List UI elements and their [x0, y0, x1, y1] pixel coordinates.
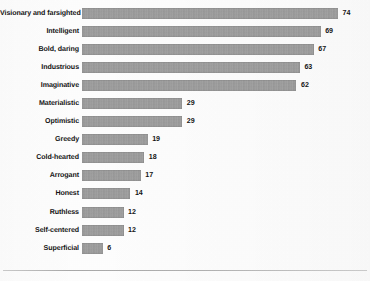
bar-value-label: 63: [304, 64, 312, 71]
bar-track: 6: [82, 239, 370, 257]
category-label: Arrogant: [0, 172, 82, 179]
bar: [82, 26, 321, 37]
bar-row: Visionary and farsighted74: [0, 4, 370, 22]
bar-row: Bold, daring67: [0, 40, 370, 58]
bar: [82, 170, 141, 181]
bar: [82, 80, 296, 91]
plot-area: Visionary and farsighted74Intelligent69B…: [0, 4, 370, 257]
bar: [82, 116, 182, 127]
bar: [82, 134, 148, 145]
category-label: Imaginative: [0, 82, 82, 89]
bar-row: Optimistic29: [0, 113, 370, 131]
bottom-divider: [3, 270, 367, 271]
bar: [82, 243, 103, 254]
bar-track: 63: [82, 58, 370, 76]
bar-row: Greedy19: [0, 131, 370, 149]
bar-value-label: 14: [135, 190, 143, 197]
bar: [82, 44, 314, 55]
bar-value-label: 6: [107, 245, 111, 252]
bar-track: 18: [82, 149, 370, 167]
bar-value-label: 29: [187, 118, 195, 125]
bar-value-label: 29: [187, 100, 195, 107]
category-label: Visionary and farsighted: [0, 10, 82, 17]
bar: [82, 152, 144, 163]
bar-value-label: 18: [149, 154, 157, 161]
bar-value-label: 62: [301, 82, 309, 89]
bar-track: 67: [82, 40, 370, 58]
bar-track: 29: [82, 113, 370, 131]
bar: [82, 188, 130, 199]
bar-track: 19: [82, 131, 370, 149]
bar: [82, 225, 124, 236]
bar-value-label: 12: [128, 227, 136, 234]
bar-row: Intelligent69: [0, 22, 370, 40]
bar-value-label: 12: [128, 209, 136, 216]
bar-row: Self-centered12: [0, 221, 370, 239]
category-label: Greedy: [0, 136, 82, 143]
bar-row: Industrious63: [0, 58, 370, 76]
bar-value-label: 74: [343, 10, 351, 17]
bar-row: Honest14: [0, 185, 370, 203]
bar-row: Superficial6: [0, 239, 370, 257]
bar-value-label: 67: [318, 46, 326, 53]
bar-track: 14: [82, 185, 370, 203]
bar-track: 12: [82, 203, 370, 221]
category-label: Ruthless: [0, 209, 82, 216]
bar: [82, 207, 124, 218]
bar: [82, 8, 338, 19]
bar: [82, 62, 300, 73]
bar-track: 62: [82, 76, 370, 94]
bar: [82, 98, 182, 109]
category-label: Cold-hearted: [0, 154, 82, 161]
category-label: Materialistic: [0, 100, 82, 107]
category-label: Bold, daring: [0, 46, 82, 53]
bar-track: 17: [82, 167, 370, 185]
horizontal-bar-chart: Visionary and farsighted74Intelligent69B…: [0, 0, 370, 281]
bar-track: 74: [82, 4, 370, 22]
bar-row: Materialistic29: [0, 94, 370, 112]
bar-track: 69: [82, 22, 370, 40]
category-label: Intelligent: [0, 28, 82, 35]
bar-row: Ruthless12: [0, 203, 370, 221]
bar-row: Imaginative62: [0, 76, 370, 94]
bar-value-label: 69: [325, 28, 333, 35]
category-label: Honest: [0, 190, 82, 197]
bar-row: Cold-hearted18: [0, 149, 370, 167]
category-label: Self-centered: [0, 227, 82, 234]
bar-value-label: 17: [145, 172, 153, 179]
category-label: Superficial: [0, 245, 82, 252]
category-label: Optimistic: [0, 118, 82, 125]
bar-track: 29: [82, 94, 370, 112]
bar-value-label: 19: [152, 136, 160, 143]
bar-row: Arrogant17: [0, 167, 370, 185]
category-label: Industrious: [0, 64, 82, 71]
bar-track: 12: [82, 221, 370, 239]
